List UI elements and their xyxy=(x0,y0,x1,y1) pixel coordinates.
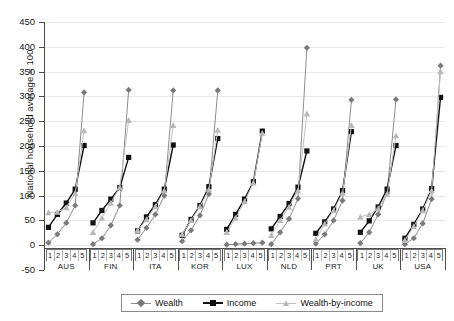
data-point xyxy=(99,208,104,213)
data-point xyxy=(117,202,123,208)
diamond-marker-icon xyxy=(131,298,151,308)
data-point xyxy=(126,155,131,160)
data-point xyxy=(259,240,265,246)
data-point xyxy=(72,202,78,208)
quintile-band-prt: 12345 xyxy=(313,249,354,261)
quintile-label: 2 xyxy=(367,250,375,261)
legend-item-wealth-by-income: Wealth-by-income xyxy=(276,298,372,308)
quintile-label: 3 xyxy=(419,250,427,261)
data-point xyxy=(367,218,372,223)
quintile-label: 4 xyxy=(383,250,391,261)
country-label-uk: UK xyxy=(356,262,401,271)
quintile-label: 4 xyxy=(71,250,79,261)
data-point xyxy=(286,216,292,222)
quintile-label: 3 xyxy=(285,250,293,261)
quintile-label: 3 xyxy=(375,250,383,261)
data-point xyxy=(215,127,221,133)
country-label-aus: AUS xyxy=(44,262,89,271)
quintile-label: 5 xyxy=(213,250,220,261)
quintile-label: 5 xyxy=(435,250,442,261)
quintile-label: 2 xyxy=(277,250,285,261)
country-label-usa: USA xyxy=(400,262,445,271)
quintile-label: 5 xyxy=(79,250,86,261)
quintile-label: 5 xyxy=(257,250,264,261)
quintile-band-uk: 12345 xyxy=(357,249,398,261)
data-point xyxy=(241,241,247,247)
data-point xyxy=(99,235,105,241)
data-point xyxy=(152,211,158,217)
quintile-label: 3 xyxy=(107,250,115,261)
quintile-label: 3 xyxy=(330,250,338,261)
country-label-ita: ITA xyxy=(133,262,178,271)
series-income xyxy=(46,95,443,241)
data-point xyxy=(393,96,399,102)
data-point xyxy=(304,111,310,117)
data-point xyxy=(411,235,417,241)
country-label-fin: FIN xyxy=(89,262,134,271)
quintile-label: 5 xyxy=(168,250,175,261)
series-line xyxy=(271,48,307,244)
data-point xyxy=(197,212,203,218)
quintile-label: 5 xyxy=(302,250,309,261)
quintile-label: 3 xyxy=(196,250,204,261)
quintile-label: 1 xyxy=(358,250,366,261)
data-point xyxy=(90,241,96,247)
square-marker-icon xyxy=(203,298,223,308)
data-point xyxy=(126,87,132,93)
legend-item-income: Income xyxy=(203,298,257,308)
quintile-label: 1 xyxy=(91,250,99,261)
country-label-nld: NLD xyxy=(267,262,312,271)
series-line xyxy=(227,131,263,229)
quintile-label: 1 xyxy=(180,250,188,261)
quintile-label: 1 xyxy=(269,250,277,261)
quintile-label: 4 xyxy=(115,250,123,261)
legend-label-wbi: Wealth-by-income xyxy=(300,298,372,308)
quintile-label: 5 xyxy=(123,250,130,261)
quintile-band-aus: 12345 xyxy=(46,249,87,261)
quintile-label: 4 xyxy=(160,250,168,261)
quintile-label: 2 xyxy=(99,250,107,261)
data-point xyxy=(108,222,114,228)
data-point xyxy=(304,45,310,51)
quintile-band-kor: 12345 xyxy=(179,249,220,261)
quintile-label: 2 xyxy=(322,250,330,261)
data-point xyxy=(99,215,105,221)
quintile-band-lux: 12345 xyxy=(224,249,265,261)
data-point xyxy=(215,87,221,93)
quintile-label: 4 xyxy=(294,250,302,261)
quintile-label: 1 xyxy=(136,250,144,261)
quintile-label: 3 xyxy=(152,250,160,261)
data-point xyxy=(366,211,372,217)
quintile-label: 4 xyxy=(204,250,212,261)
data-point xyxy=(331,217,337,223)
quintile-label: 4 xyxy=(427,250,435,261)
data-point xyxy=(358,230,363,235)
chart-container: National household average = 100 4504003… xyxy=(0,0,454,321)
data-point xyxy=(268,232,274,238)
data-point xyxy=(171,142,176,147)
country-separator xyxy=(445,248,446,270)
quintile-label: 2 xyxy=(144,250,152,261)
quintile-label: 2 xyxy=(188,250,196,261)
data-point xyxy=(269,226,274,231)
data-point xyxy=(437,63,443,69)
legend-item-wealth: Wealth xyxy=(131,298,183,308)
quintile-label: 5 xyxy=(346,250,353,261)
quintile-label: 3 xyxy=(241,250,249,261)
quintile-label: 3 xyxy=(63,250,71,261)
data-point xyxy=(46,225,51,230)
triangle-marker-icon xyxy=(276,298,296,308)
data-point xyxy=(375,211,381,217)
data-point xyxy=(81,127,87,133)
data-point xyxy=(437,68,443,74)
quintile-label: 1 xyxy=(314,250,322,261)
quintile-label: 1 xyxy=(403,250,411,261)
quintile-label: 4 xyxy=(338,250,346,261)
data-point xyxy=(348,97,354,103)
quintile-band-fin: 12345 xyxy=(90,249,131,261)
chart-legend: Wealth Income Wealth-by-income xyxy=(121,294,383,312)
data-point xyxy=(224,242,230,248)
quintile-label: 2 xyxy=(411,250,419,261)
data-point xyxy=(429,196,435,202)
series-wealth xyxy=(45,45,443,248)
